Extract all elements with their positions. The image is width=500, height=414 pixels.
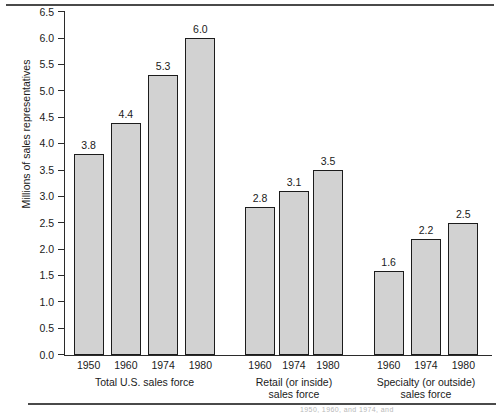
- y-axis-tick-label: 2.5: [18, 218, 54, 228]
- x-axis-tick-label: 1980: [178, 359, 222, 371]
- group-label-line: sales force: [340, 388, 500, 400]
- y-axis-tick-label: 5.0: [18, 86, 54, 96]
- bar: [185, 38, 215, 355]
- y-axis-tick-label: 1.0: [18, 297, 54, 307]
- group-label: Specialty (or outside)sales force: [340, 376, 500, 400]
- bar: [74, 154, 104, 355]
- y-axis-tick-label: 4.0: [18, 138, 54, 148]
- bar-value-label: 3.1: [274, 177, 314, 188]
- bar: [374, 271, 404, 355]
- bar: [448, 223, 478, 355]
- group-label-line: Specialty (or outside): [340, 376, 500, 388]
- bar: [111, 123, 141, 355]
- bar: [411, 239, 441, 355]
- y-axis-tick-label: 1.5: [18, 270, 54, 280]
- bar-value-label: 2.2: [406, 225, 446, 236]
- y-axis-tick-label: 4.5: [18, 112, 54, 122]
- bar-value-label: 5.3: [143, 61, 183, 72]
- bar-value-label: 4.4: [106, 109, 146, 120]
- cut-off-caption: 1950, 1960, and 1974, and: [300, 406, 496, 413]
- bar: [313, 170, 343, 355]
- bottom-rule: [28, 403, 496, 405]
- bar-chart-figure: Millions of sales representatives 0.00.5…: [0, 0, 500, 414]
- bar-value-label: 2.5: [443, 209, 483, 220]
- y-axis-tick-label: 2.0: [18, 244, 54, 254]
- y-axis-tick-label: 6.0: [18, 33, 54, 43]
- bar-value-label: 1.6: [369, 257, 409, 268]
- bar: [279, 191, 309, 355]
- bar: [245, 207, 275, 355]
- y-axis-tick-label: 5.5: [18, 59, 54, 69]
- bar-value-label: 3.5: [308, 156, 348, 167]
- bar-value-label: 6.0: [180, 24, 220, 35]
- y-axis-line: [64, 12, 65, 356]
- x-axis-tick-label: 1980: [441, 359, 485, 371]
- top-rule: [6, 4, 494, 6]
- y-axis-tick-label: 3.5: [18, 165, 54, 175]
- x-axis-tick-label: 1980: [306, 359, 350, 371]
- bar: [148, 75, 178, 355]
- bar-value-label: 2.8: [240, 193, 280, 204]
- x-axis-line: [64, 355, 492, 356]
- y-axis-tick-label: 0.0: [18, 350, 54, 360]
- y-axis-tick-label: 3.0: [18, 191, 54, 201]
- y-axis-tick-label: 6.5: [18, 7, 54, 17]
- y-axis-tick-label: 0.5: [18, 323, 54, 333]
- bar-value-label: 3.8: [69, 140, 109, 151]
